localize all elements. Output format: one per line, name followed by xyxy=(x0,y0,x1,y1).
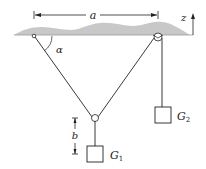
weight-g1 xyxy=(87,146,103,162)
rope-left xyxy=(35,37,92,117)
angle-alpha-arc xyxy=(44,36,52,51)
weight-g2 xyxy=(155,107,171,123)
label-z: z xyxy=(180,12,187,23)
ceiling-support xyxy=(14,22,190,35)
label-alpha: α xyxy=(56,44,63,55)
dimension-a: a xyxy=(34,9,158,22)
label-a: a xyxy=(90,9,97,22)
dimension-b: b xyxy=(72,118,78,154)
pulley-system-diagram: a z α G1 G2 b xyxy=(0,0,206,169)
label-b: b xyxy=(72,130,78,141)
moving-pulley xyxy=(92,115,99,122)
label-g1: G1 xyxy=(110,149,123,163)
rope-middle xyxy=(98,38,154,117)
label-g2: G2 xyxy=(177,110,190,124)
